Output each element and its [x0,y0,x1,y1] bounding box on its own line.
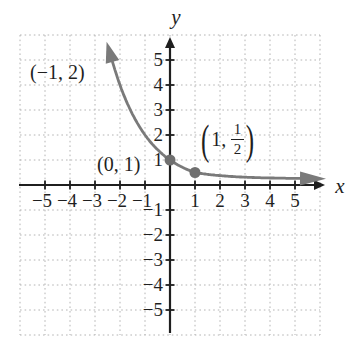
y-tick-label: 4 [154,74,164,95]
close-paren: ) [246,118,254,161]
y-tick-label: 3 [154,99,164,120]
fraction-denominator: 2 [234,140,242,157]
data-point [165,155,176,166]
x-tick-label: −5 [32,190,52,211]
y-tick-label: 2 [154,124,164,145]
point-label-1-half: ( 1, 1 2 ) [201,116,254,162]
plot-canvas: −5−4−3−2−112345−5−4−3−2−112345yx [0,0,359,346]
point-label-neg1-2: (−1, 2) [30,62,85,82]
y-axis-arrowhead [165,37,175,48]
x-tick-label: 1 [190,190,200,211]
y-tick-label: −5 [143,299,163,320]
x-axis-label: x [334,174,345,198]
x-tick-label: 4 [265,190,275,211]
x-axis-arrowhead [314,180,325,190]
x-tick-label: −3 [82,190,102,211]
data-point [190,167,201,178]
x-tick-label: 5 [290,190,300,211]
exponential-graph-figure: −5−4−3−2−112345−5−4−3−2−112345yx (−1, 2)… [0,0,359,346]
x-tick-label: −4 [57,190,78,211]
fraction-one-half: 1 2 [231,121,244,156]
x-tick-label: 2 [215,190,225,211]
y-tick-label: −3 [143,249,163,270]
open-paren: ( [201,118,209,161]
point-label-0-1: (0, 1) [97,154,140,174]
y-axis-label: y [169,5,181,29]
y-tick-label: −4 [143,274,164,295]
fraction-label-x-value: 1, [211,129,226,149]
y-tick-label: −1 [143,199,163,220]
y-tick-label: −2 [143,224,163,245]
x-tick-label: 3 [240,190,250,211]
curve-arrowhead-upper [106,42,119,64]
x-tick-label: −2 [107,190,127,211]
y-tick-label: 5 [154,49,164,70]
fraction-numerator: 1 [231,121,244,139]
curve-arrowhead-right [300,171,326,185]
